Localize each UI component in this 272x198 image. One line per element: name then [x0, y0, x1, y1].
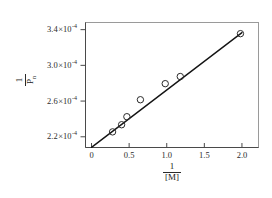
data-point [124, 114, 130, 120]
x-tick-marks [92, 143, 242, 148]
y-axis-denominator-base: P [25, 79, 35, 84]
data-point [162, 80, 168, 86]
x-axis-label: 1 [M] [150, 162, 194, 183]
y-tick-mantissa: 2.6 [47, 96, 58, 106]
x-axis-numerator: 1 [163, 162, 181, 172]
y-tick-mantissa: 3.0 [47, 60, 58, 70]
y-tick-label-2.6: 2.6×10-4 [20, 97, 77, 106]
x-axis-denominator: [M] [163, 172, 181, 183]
y-tick-label-2.2: 2.2×10-4 [20, 132, 77, 141]
y-tick-label-3.4: 3.4×10-4 [20, 25, 77, 34]
y-tick-multiplier: ×10 [58, 131, 72, 141]
y-axis-denominator: Pn [25, 74, 36, 86]
y-tick-marks [81, 30, 86, 137]
y-axis-label: 1 Pn [5, 63, 45, 97]
x-tick-label-2.0: 2.0 [231, 151, 252, 160]
x-tick-label-1.5: 1.5 [194, 151, 215, 160]
y-tick-exponent: -4 [72, 130, 77, 136]
x-tick-label-0.5: 0.5 [119, 151, 140, 160]
y-tick-mantissa: 2.2 [47, 131, 58, 141]
y-tick-multiplier: ×10 [58, 96, 72, 106]
data-point [137, 97, 143, 103]
x-tick-label-0: 0 [81, 151, 102, 160]
x-tick-label-1.0: 1.0 [156, 151, 177, 160]
y-axis-denominator-subscript: n [31, 76, 37, 79]
y-tick-exponent: -4 [72, 23, 77, 29]
y-tick-exponent: -4 [72, 95, 77, 101]
y-tick-exponent: -4 [72, 59, 77, 65]
fit-line [92, 33, 242, 148]
y-tick-multiplier: ×10 [58, 24, 72, 34]
y-axis-fraction: 1 Pn [15, 74, 36, 86]
y-tick-multiplier: ×10 [58, 60, 72, 70]
y-tick-mantissa: 3.4 [47, 24, 58, 34]
data-point [177, 73, 183, 79]
chart-figure: 3.4×10-4 3.0×10-4 2.6×10-4 2.2×10-4 0 0.… [0, 0, 272, 198]
y-axis-numerator: 1 [15, 74, 25, 86]
x-axis-fraction: 1 [M] [163, 162, 181, 183]
